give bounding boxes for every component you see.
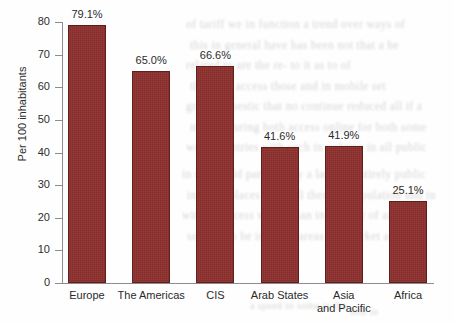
bar-texture	[133, 72, 169, 282]
bar-texture	[262, 148, 298, 282]
y-tick-label: 10	[22, 243, 50, 255]
y-tick-label: 60	[22, 80, 50, 92]
bar-value-label: 41.9%	[314, 129, 374, 141]
bar-texture	[197, 67, 233, 282]
bar-texture	[390, 202, 426, 282]
y-tick-label: 30	[22, 178, 50, 190]
y-tick-mark	[55, 283, 62, 284]
bar	[389, 201, 427, 283]
bar	[68, 25, 106, 283]
y-tick-label: 0	[22, 276, 50, 288]
bar-texture	[326, 147, 362, 282]
bar-value-label: 41.6%	[250, 130, 310, 142]
y-tick-label: 70	[22, 48, 50, 60]
bar-value-label: 25.1%	[378, 184, 438, 196]
bar-texture	[69, 26, 105, 282]
y-tick-mark	[55, 120, 62, 121]
x-category-label: Africa	[362, 289, 454, 302]
y-tick-mark	[55, 185, 62, 186]
y-tick-mark	[55, 87, 62, 88]
plot-area	[62, 22, 434, 283]
y-tick-label: 80	[22, 15, 50, 27]
x-axis-spine	[62, 283, 434, 284]
bar	[325, 146, 363, 283]
bar-value-label: 79.1%	[57, 8, 117, 20]
y-tick-mark	[55, 55, 62, 56]
bar	[132, 71, 170, 283]
bar	[196, 66, 234, 283]
y-tick-label: 50	[22, 113, 50, 125]
y-tick-mark	[55, 22, 62, 23]
y-tick-mark	[55, 250, 62, 251]
bar	[261, 147, 299, 283]
y-tick-mark	[55, 153, 62, 154]
y-tick-label: 20	[22, 211, 50, 223]
bar-value-label: 66.6%	[185, 49, 245, 61]
y-tick-label: 40	[22, 146, 50, 158]
y-tick-mark	[55, 218, 62, 219]
chart-figure: of tariff we in function a trend over wa…	[0, 0, 454, 324]
bar-value-label: 65.0%	[121, 54, 181, 66]
